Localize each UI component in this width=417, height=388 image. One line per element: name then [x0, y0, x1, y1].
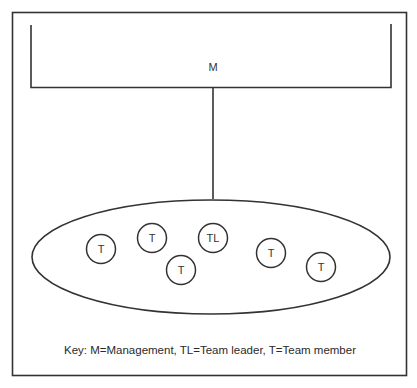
management-label: M: [208, 61, 217, 73]
team-node: TL: [199, 224, 228, 253]
team-ellipse: [32, 200, 390, 314]
organisation-diagram: M T T T TL T T Key: M=Management, TL=Tea…: [0, 0, 417, 388]
diagram-key: Key: M=Management, TL=Team leader, T=Tea…: [64, 344, 356, 356]
team-node: T: [307, 253, 336, 282]
team-member-label: T: [98, 243, 105, 255]
team-leader-label: TL: [207, 232, 220, 244]
team-node: T: [138, 224, 167, 253]
team-member-label: T: [178, 264, 185, 276]
team-member-label: T: [268, 247, 275, 259]
team-member-label: T: [149, 232, 156, 244]
team-node: T: [257, 239, 286, 268]
management-bracket: [31, 24, 391, 88]
team-node: T: [167, 256, 196, 285]
team-node: T: [87, 235, 116, 264]
team-member-label: T: [318, 261, 325, 273]
